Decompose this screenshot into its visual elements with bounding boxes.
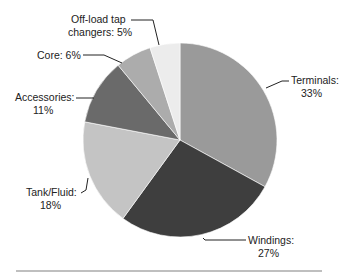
label-windings: Windings: (248, 234, 294, 246)
leader-windings (203, 238, 246, 240)
pie-chart: Terminals: 33% Windings: 27% Tank/Fluid:… (0, 0, 350, 272)
leader-core (83, 55, 122, 63)
label-accessories: Accessories: (15, 91, 75, 103)
label-offload-value: changers: 5% (68, 26, 132, 38)
leader-terminals (266, 81, 289, 88)
label-accessories-value: 11% (33, 104, 53, 116)
label-tank-fluid-value: 18% (40, 199, 61, 211)
pie-slices (83, 43, 277, 237)
label-terminals-value: 33% (301, 87, 322, 99)
label-windings-value: 27% (258, 247, 279, 259)
leader-tank-fluid (81, 178, 88, 193)
leader-offload (131, 20, 159, 45)
label-offload: Off-load tap (71, 13, 126, 25)
label-core: Core: 6% (37, 49, 81, 61)
label-tank-fluid: Tank/Fluid: (26, 186, 77, 198)
label-terminals: Terminals: (291, 74, 339, 86)
